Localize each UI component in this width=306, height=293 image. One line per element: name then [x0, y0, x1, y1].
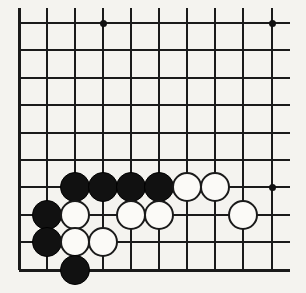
black-stone[interactable] — [32, 200, 62, 230]
black-stone[interactable] — [88, 172, 118, 202]
white-stone[interactable] — [144, 200, 174, 230]
white-stone[interactable] — [88, 227, 118, 257]
board-stones — [0, 0, 306, 293]
black-stone[interactable] — [32, 227, 62, 257]
white-stone[interactable] — [200, 172, 230, 202]
white-stone[interactable] — [116, 200, 146, 230]
white-stone[interactable] — [228, 200, 258, 230]
white-stone[interactable] — [172, 172, 202, 202]
go-board-diagram: Go board corner diagram — [0, 0, 306, 293]
white-stone[interactable] — [60, 227, 90, 257]
black-stone[interactable] — [116, 172, 146, 202]
white-stone[interactable] — [60, 200, 90, 230]
black-stone[interactable] — [60, 255, 90, 285]
black-stone[interactable] — [60, 172, 90, 202]
black-stone[interactable] — [144, 172, 174, 202]
